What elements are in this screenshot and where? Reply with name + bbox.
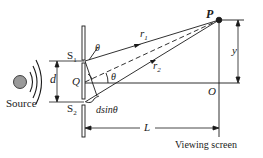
source-icon — [14, 76, 27, 89]
rays — [85, 20, 240, 103]
r1-label: r1 — [140, 28, 148, 42]
theta-mid-label: θ — [111, 72, 116, 82]
r2-label: r2 — [153, 60, 161, 74]
source-label: Source — [6, 98, 37, 109]
y-label: y — [232, 45, 237, 56]
l-dimension — [85, 126, 219, 130]
r1-arrow-icon — [134, 44, 141, 48]
dsin-label: dsinθ — [96, 105, 118, 115]
double-slit-diagram — [0, 0, 263, 158]
theta-top-label: θ — [95, 43, 100, 53]
s1-label: S1 — [67, 50, 77, 64]
p-label: P — [206, 8, 213, 20]
slit-barrier — [82, 26, 85, 137]
d-label: d — [50, 73, 56, 85]
s2-label: S2 — [67, 103, 77, 117]
o-label: O — [208, 86, 216, 97]
l-label: L — [144, 122, 150, 133]
q-label: Q — [72, 76, 80, 87]
viewing-screen-label: Viewing screen — [175, 140, 237, 150]
